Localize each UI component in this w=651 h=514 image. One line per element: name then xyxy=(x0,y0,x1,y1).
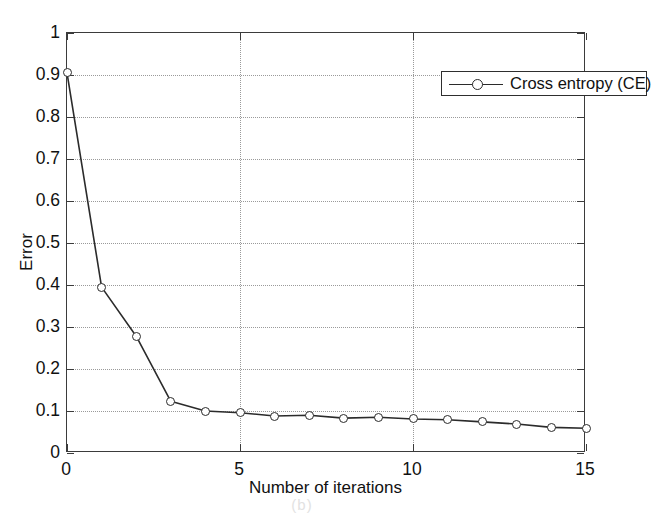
data-point-marker xyxy=(305,411,314,420)
y-tick-label: 0.3 xyxy=(4,316,60,337)
y-axis-tick xyxy=(67,453,74,454)
x-tick-label: 10 xyxy=(402,459,421,480)
data-point-marker xyxy=(132,332,141,341)
legend-box[interactable]: Cross entropy (CE) xyxy=(441,71,647,96)
data-point-marker xyxy=(409,414,418,423)
y-tick-label: 0 xyxy=(4,442,60,463)
data-point-marker xyxy=(339,414,348,423)
x-tick-label: 15 xyxy=(575,459,594,480)
y-tick-label: 0.1 xyxy=(4,400,60,421)
x-axis-tick xyxy=(586,444,587,451)
legend-label-cross-entropy: Cross entropy (CE) xyxy=(510,74,651,93)
y-tick-label: 0.8 xyxy=(4,106,60,127)
y-tick-label: 0.9 xyxy=(4,64,60,85)
y-axis-tick-right xyxy=(577,453,584,454)
y-tick-label: 0.5 xyxy=(4,232,60,253)
y-tick-label: 0.2 xyxy=(4,358,60,379)
data-point-marker xyxy=(63,68,72,77)
data-point-marker xyxy=(512,420,521,429)
y-tick-label: 0.7 xyxy=(4,148,60,169)
data-point-marker xyxy=(582,424,591,433)
x-axis-tick-top xyxy=(586,33,587,40)
data-point-marker xyxy=(270,412,279,421)
data-point-marker xyxy=(236,408,245,417)
y-tick-label: 0.4 xyxy=(4,274,60,295)
x-tick-label: 0 xyxy=(61,459,71,480)
series-line-path xyxy=(67,33,586,453)
legend-marker-icon xyxy=(449,77,503,91)
y-tick-label: 1 xyxy=(4,22,60,43)
data-point-marker xyxy=(374,413,383,422)
data-point-marker xyxy=(97,283,106,292)
y-tick-label: 0.6 xyxy=(4,190,60,211)
x-axis-title: Number of iterations xyxy=(66,478,585,498)
data-point-marker xyxy=(201,407,210,416)
data-point-marker xyxy=(547,423,556,432)
scan-artifact-caption: (b) xyxy=(0,496,604,513)
plot-area: Cross entropy (CE) xyxy=(66,32,585,452)
x-tick-label: 5 xyxy=(234,459,244,480)
